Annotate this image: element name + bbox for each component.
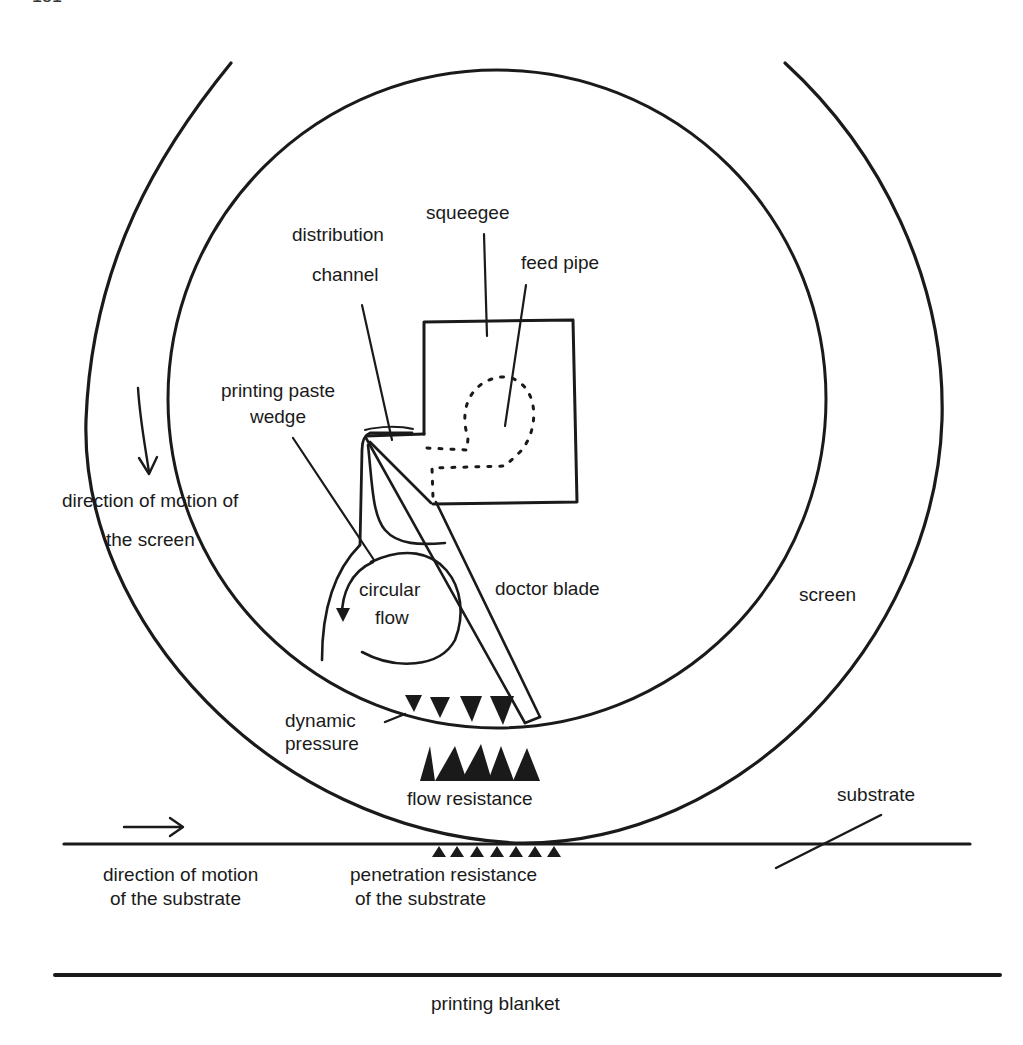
distribution-channel-leader xyxy=(362,305,392,440)
label-doctor-blade: doctor blade xyxy=(495,578,600,600)
doctor-blade-tip xyxy=(525,717,540,723)
label-distribution: distribution xyxy=(292,224,384,246)
label-of-the-substrate: of the substrate xyxy=(355,888,486,910)
dynamic-pressure-leader xyxy=(385,714,405,722)
label-pressure: pressure xyxy=(285,733,359,755)
flow-resistance-markers xyxy=(420,744,540,781)
page-number-fragment: 151 xyxy=(32,0,62,7)
label-wedge: wedge xyxy=(250,406,306,428)
label-direction-screen-2: the screen xyxy=(106,529,195,551)
circular-flow-outer xyxy=(322,545,360,660)
squeegee-box xyxy=(424,320,577,504)
label-direction-substrate-2: of the substrate xyxy=(110,888,241,910)
label-printing-paste: printing paste xyxy=(221,380,335,402)
label-flow: flow xyxy=(375,607,409,629)
doctor-blade-edge-2 xyxy=(436,502,540,717)
label-substrate: substrate xyxy=(837,784,915,806)
label-squeegee: squeegee xyxy=(426,202,509,224)
feed-pipe-leader xyxy=(505,285,526,426)
label-circular: circular xyxy=(359,579,420,601)
doctor-blade-slope xyxy=(370,442,431,503)
label-feed-pipe: feed pipe xyxy=(521,252,599,274)
substrate-leader xyxy=(776,815,881,868)
label-dynamic: dynamic xyxy=(285,710,356,732)
label-direction-screen-1: direction of motion of xyxy=(62,490,238,512)
label-channel: channel xyxy=(312,264,379,286)
circular-flow-arrowhead xyxy=(336,608,350,622)
label-flow-resistance: flow resistance xyxy=(407,788,533,810)
feed-pipe-dotted xyxy=(427,377,534,498)
label-printing-blanket: printing blanket xyxy=(431,993,560,1015)
label-screen: screen xyxy=(799,584,856,606)
label-direction-substrate-1: direction of motion xyxy=(103,864,258,886)
penetration-resistance-markers xyxy=(432,846,561,857)
channel-base-line xyxy=(366,434,424,436)
label-penetration-resistance: penetration resistance xyxy=(350,864,537,886)
